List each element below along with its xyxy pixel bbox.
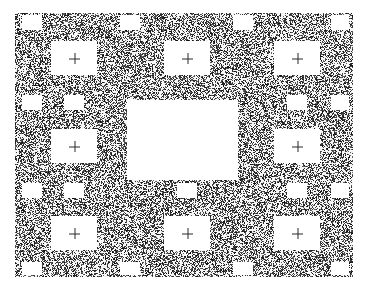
aperture-minor-r2-c0 — [22, 183, 42, 198]
aperture-minor-r2-c2 — [177, 183, 197, 198]
aperture-minor-r1-c1 — [64, 95, 84, 110]
stimulus-canvas — [0, 0, 370, 288]
aperture-minor-r3-c0 — [22, 262, 42, 275]
aperture-minor-r2-c1 — [64, 183, 84, 198]
aperture-cell-middle-left — [51, 129, 97, 163]
aperture-minor-r2-c3 — [287, 183, 307, 198]
aperture-minor-r3-c1 — [120, 262, 140, 275]
aperture-minor-r1-c4 — [331, 95, 349, 110]
aperture-cell-middle-right — [274, 129, 320, 163]
aperture-minor-r0-c3 — [331, 15, 349, 30]
aperture-minor-r0-c2 — [233, 15, 253, 30]
aperture-cell-bottom-center — [164, 216, 210, 250]
aperture-minor-r3-c3 — [331, 262, 349, 275]
aperture-minor-r0-c0 — [22, 15, 42, 30]
aperture-cell-top-center — [164, 41, 210, 75]
aperture-minor-r3-c2 — [233, 262, 253, 275]
aperture-minor-r1-c3 — [287, 95, 307, 110]
aperture-cell-top-left — [51, 41, 97, 75]
aperture-cell-top-right — [274, 41, 320, 75]
central-target-rect — [127, 100, 238, 180]
aperture-cell-bottom-left — [51, 216, 97, 250]
aperture-minor-r0-c1 — [120, 15, 140, 30]
aperture-minor-r2-c4 — [331, 183, 349, 198]
aperture-minor-r1-c0 — [22, 95, 42, 110]
aperture-cell-bottom-right — [274, 216, 320, 250]
